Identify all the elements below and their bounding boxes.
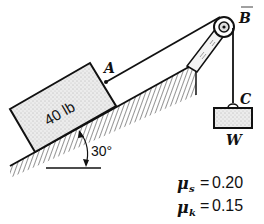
attachment-point-a [104,80,108,84]
svg-text:μ: μ [177,174,189,193]
kinetic-friction-coefficient: μ k = 0.15 [177,197,243,218]
point-a-label: A [102,60,115,76]
svg-text:s: s [189,183,195,194]
angle-label: 30° [91,143,112,159]
svg-text:B: B [238,10,251,26]
static-friction-coefficient: μ s = 0.20 [177,174,243,194]
svg-text:0.15: 0.15 [212,197,243,214]
weight-w-label: W [226,132,243,148]
pulley-b [214,17,234,37]
hanging-weight-w [214,108,252,128]
svg-text:k: k [189,207,196,218]
svg-text:=: = [200,197,209,214]
svg-text:=: = [200,174,209,191]
point-c-label: C [240,91,251,107]
svg-text:0.20: 0.20 [212,174,243,191]
statics-diagram: 40 lb A B C W 30° μ s = 0.20 μ k = 0.15 [0,0,264,224]
svg-text:μ: μ [177,198,189,217]
point-b-label: B [238,7,253,26]
